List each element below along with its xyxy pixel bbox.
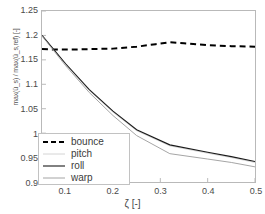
x-tick-label: 0.3 [145, 186, 175, 196]
legend-item-warp[interactable]: warp [39, 172, 129, 184]
legend-label: warp [71, 172, 93, 184]
y-tick-label: 1.05 [12, 104, 38, 114]
y-tick-label: 0.95 [12, 153, 38, 163]
legend-item-bounce[interactable]: bounce [39, 136, 129, 148]
x-tick-label: 0.1 [50, 186, 80, 196]
legend-line-sample-warp [42, 173, 66, 183]
y-axis-tick-labels: 0.90.9511.051.11.151.21.25 [9, 0, 38, 214]
y-tick-label: 1.1 [12, 79, 38, 89]
x-tick-label: 0.5 [241, 186, 265, 196]
series-line-bounce [42, 42, 255, 49]
x-tick-label: 0.4 [193, 186, 223, 196]
x-tick-label: 0.2 [98, 186, 128, 196]
y-tick-label: 1 [12, 129, 38, 139]
legend-item-roll[interactable]: roll [39, 160, 129, 172]
legend-label: bounce [71, 136, 104, 148]
legend-line-sample-pitch [42, 149, 66, 159]
y-tick-label: 1.2 [12, 30, 38, 40]
y-tick-label: 1.15 [12, 54, 38, 64]
chart-figure: max(ü_s) / max(ü_s,ref) [-] 0.90.9511.… [0, 0, 265, 214]
legend-label: pitch [71, 148, 92, 160]
legend-line-sample-bounce [42, 137, 66, 147]
legend-label: roll [71, 160, 84, 172]
x-axis-label: ζ [-] [0, 198, 265, 209]
y-tick-label: 1.25 [12, 5, 38, 15]
chart-legend: bouncepitchrollwarp [38, 133, 130, 185]
legend-item-pitch[interactable]: pitch [39, 148, 129, 160]
legend-line-sample-roll [42, 161, 66, 171]
